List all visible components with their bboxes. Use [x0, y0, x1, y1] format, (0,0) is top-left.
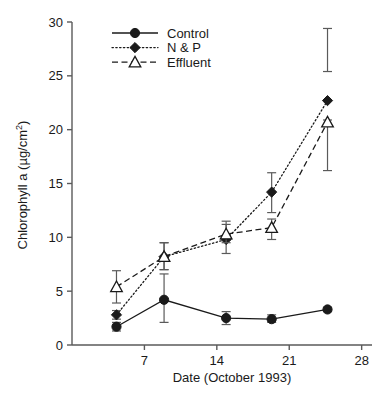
- y-axis-title: Chlorophyll a (µg/cm2): [14, 121, 30, 250]
- y-tick-label: 25: [49, 68, 63, 83]
- y-tick-label: 30: [49, 15, 63, 30]
- x-tick-label: 7: [141, 353, 148, 368]
- legend-label: Control: [167, 26, 209, 41]
- legend-label: N & P: [167, 40, 201, 55]
- data-point-marker: [323, 305, 332, 314]
- x-tick-label: 28: [354, 353, 368, 368]
- legend-label: Effluent: [167, 55, 211, 70]
- legend-marker-sample: [130, 28, 139, 37]
- data-point-marker: [112, 322, 121, 331]
- x-tick-label: 21: [282, 353, 296, 368]
- y-tick-label: 10: [49, 230, 63, 245]
- data-point-marker: [159, 295, 168, 304]
- y-tick-label: 20: [49, 122, 63, 137]
- chlorophyll-line-chart: 051015202530 7142128 ControlN & PEffluen…: [0, 0, 392, 407]
- y-tick-label: 5: [56, 284, 63, 299]
- data-point-marker: [267, 315, 276, 324]
- data-point-marker: [222, 313, 231, 322]
- x-tick-label: 14: [210, 353, 224, 368]
- y-tick-label: 0: [56, 338, 63, 353]
- y-tick-label: 15: [49, 176, 63, 191]
- y-axis-title-text: Chlorophyll a (µg/cm2): [14, 121, 30, 250]
- x-axis-title: Date (October 1993): [173, 370, 292, 385]
- chart-container: 051015202530 7142128 ControlN & PEffluen…: [0, 0, 392, 407]
